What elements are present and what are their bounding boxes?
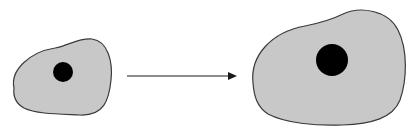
large-cell [253,10,406,125]
cell-growth-diagram [0,0,417,132]
large-cell-nucleus [316,44,348,76]
small-cell [13,39,111,115]
small-cell-nucleus [53,62,73,82]
arrow-head-icon [228,72,237,80]
growth-arrow [127,72,237,80]
